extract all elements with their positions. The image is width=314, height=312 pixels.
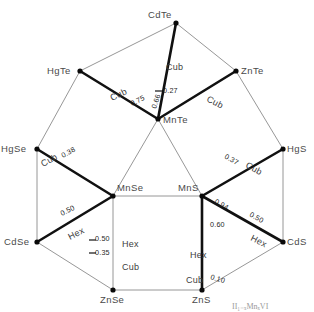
composition-value-5: 0.50 xyxy=(59,203,76,218)
edge-CdS-ZnS xyxy=(202,242,283,290)
node-label-znte: ZnTe xyxy=(241,65,264,76)
node-label-cds: CdS xyxy=(287,236,307,247)
node-label-cdte: CdTe xyxy=(148,9,172,20)
node-dot-znse[interactable] xyxy=(110,287,115,292)
edge-CdTe-HgTe xyxy=(80,23,176,71)
node-label-hgs: HgS xyxy=(287,143,307,154)
node-dot-zns[interactable] xyxy=(199,287,204,292)
caption-layer: II₁₋ₓMnₓVI xyxy=(232,302,269,311)
structure-label-7-hex: Hex xyxy=(122,239,139,249)
node-dot-cdte[interactable] xyxy=(173,20,178,25)
node-dot-znte[interactable] xyxy=(233,68,238,73)
structure-label-6-hex: Hex xyxy=(249,233,269,250)
edge-CdTe-ZnTe xyxy=(176,23,236,71)
figure-caption: II₁₋ₓMnₓVI xyxy=(232,302,269,311)
node-label-hgse: HgSe xyxy=(1,143,26,154)
node-label-znse: ZnSe xyxy=(100,294,124,305)
node-dot-mns[interactable] xyxy=(199,193,204,198)
composition-value-11: 0.10 xyxy=(209,272,226,285)
structure-label-5-hex: Hex xyxy=(66,225,86,242)
node-label-zns: ZnS xyxy=(192,294,211,305)
node-label-mnse: MnSe xyxy=(117,182,143,193)
structure-label-10-cub: Cub xyxy=(186,275,203,285)
structure-label-9-hex: Hex xyxy=(190,250,207,260)
composition-value-9: 0.35 xyxy=(95,248,110,257)
edge-ZnTe-MnTe xyxy=(158,71,236,119)
node-dot-hgse[interactable] xyxy=(34,146,39,151)
edge-ZnTe-HgS xyxy=(236,71,283,149)
node-dot-cdse[interactable] xyxy=(34,239,39,244)
structure-label-8-cub: Cub xyxy=(122,262,139,272)
phase-diagram-canvas: CdTeHgTeZnTeMnTeHgSeHgSMnSeMnSCdSeCdSZnS… xyxy=(0,0,314,312)
edge-HgTe-HgSe xyxy=(37,71,80,149)
edges-layer xyxy=(37,23,283,290)
composition-value-8: 0.50 xyxy=(95,234,110,243)
structure-label-0-cub: Cub xyxy=(166,62,183,72)
node-label-hgte: HgTe xyxy=(47,65,71,76)
phase-diagram-figure: CdTeHgTeZnTeMnTeHgSeHgSMnSeMnSCdSeCdSZnS… xyxy=(0,0,314,312)
node-dot-mnse[interactable] xyxy=(110,193,115,198)
node-dot-mnte[interactable] xyxy=(155,116,160,121)
structure-label-3-cub: Cub xyxy=(39,152,59,169)
edge-HgS-MnS xyxy=(202,149,283,196)
composition-value-10: 0.60 xyxy=(210,220,225,229)
node-label-mnte: MnTe xyxy=(163,114,188,125)
composition-value-0: 0.27 xyxy=(163,86,178,95)
node-dot-hgte[interactable] xyxy=(77,68,82,73)
structure-label-2-cub: Cub xyxy=(205,94,225,111)
node-dot-cds[interactable] xyxy=(280,239,285,244)
node-dot-hgs[interactable] xyxy=(280,146,285,151)
composition-value-4: 0.37 xyxy=(223,152,240,167)
composition-value-3: 0.38 xyxy=(60,145,77,160)
node-label-mns: MnS xyxy=(178,182,199,193)
node-label-cdse: CdSe xyxy=(4,236,29,247)
